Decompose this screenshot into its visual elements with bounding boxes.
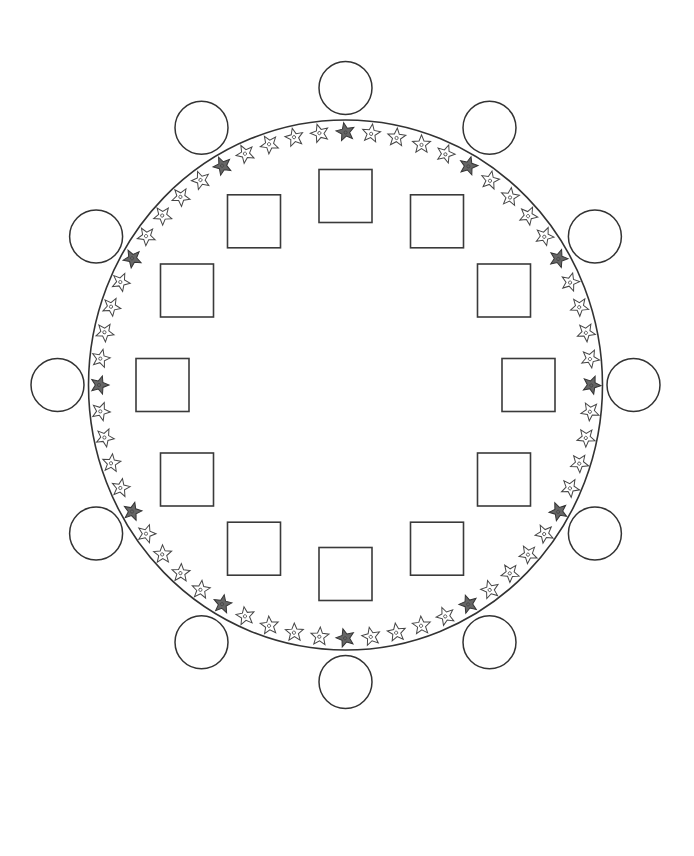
inner-square bbox=[228, 522, 281, 575]
inner-square bbox=[136, 359, 189, 412]
seat-circle bbox=[319, 656, 372, 709]
inner-square bbox=[411, 195, 464, 248]
seat-circle bbox=[319, 62, 372, 115]
seat-circle bbox=[607, 359, 660, 412]
inner-square bbox=[319, 170, 372, 223]
inner-square bbox=[478, 264, 531, 317]
seat-circle bbox=[31, 359, 84, 412]
seat-circle bbox=[463, 616, 516, 669]
seat-circle bbox=[463, 101, 516, 154]
inner-square bbox=[161, 453, 214, 506]
inner-square bbox=[161, 264, 214, 317]
seat-circle bbox=[568, 507, 621, 560]
seat-circle bbox=[175, 101, 228, 154]
circular-seating-diagram bbox=[0, 0, 694, 856]
seat-circle bbox=[70, 210, 123, 263]
seat-circle bbox=[175, 616, 228, 669]
seat-circle bbox=[568, 210, 621, 263]
inner-square bbox=[228, 195, 281, 248]
inner-square bbox=[411, 522, 464, 575]
inner-square bbox=[319, 548, 372, 601]
seat-circle bbox=[70, 507, 123, 560]
inner-square bbox=[478, 453, 531, 506]
inner-square bbox=[502, 359, 555, 412]
